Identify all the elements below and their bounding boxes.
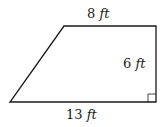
bottom-side-unit: ft xyxy=(87,107,97,122)
right-angle-marker xyxy=(148,94,156,102)
top-side-value: 8 xyxy=(87,6,95,21)
right-side-unit: ft xyxy=(135,56,145,71)
top-side-unit: ft xyxy=(99,6,109,21)
bottom-side-value: 13 xyxy=(66,107,83,122)
right-side-label: 6 ft xyxy=(123,57,145,70)
top-side-label: 8 ft xyxy=(87,7,109,20)
right-side-value: 6 xyxy=(123,56,131,71)
bottom-side-label: 13 ft xyxy=(66,108,97,121)
